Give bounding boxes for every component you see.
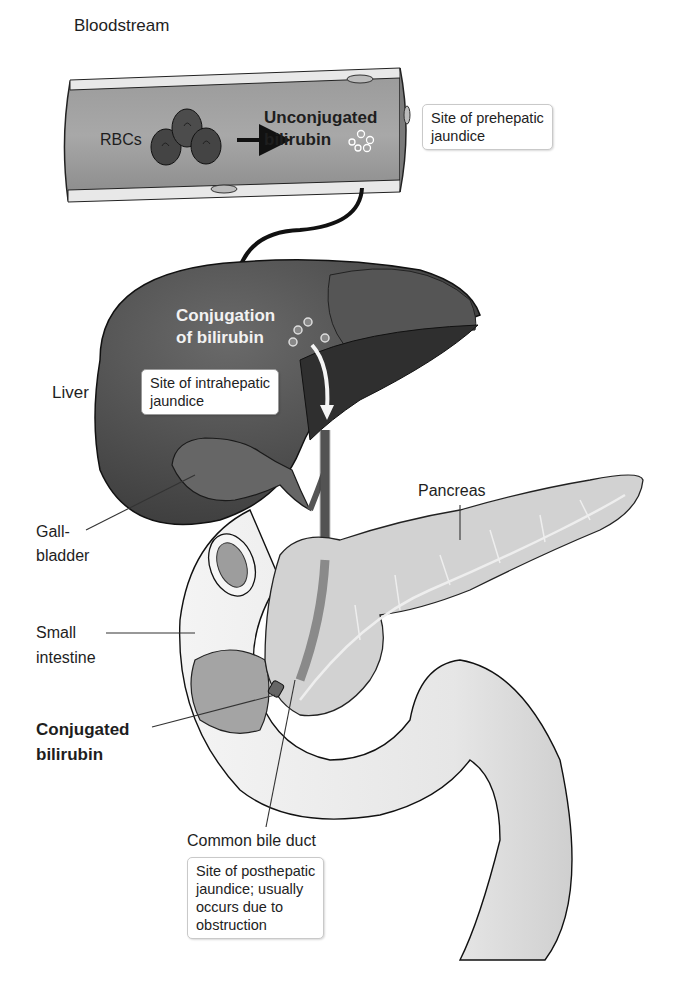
conjugation-label-line1: Conjugation xyxy=(176,306,275,326)
intrahepatic-line2: jaundice xyxy=(150,392,270,410)
rbcs-label: RBCs xyxy=(100,130,142,150)
small-intestine-label-line2: intestine xyxy=(36,648,96,668)
posthepatic-line4: obstruction xyxy=(196,916,315,934)
posthepatic-line2: jaundice; usually xyxy=(196,880,315,898)
intrahepatic-line1: Site of intrahepatic xyxy=(150,374,270,392)
unconjugated-bilirubin-label-line2: bilirubin xyxy=(264,130,331,150)
pancreas-label: Pancreas xyxy=(418,481,486,501)
conjugation-label-line2: of bilirubin xyxy=(176,328,264,348)
prehepatic-line1: Site of prehepatic xyxy=(431,109,544,127)
jaundice-diagram: Bloodstream RBCs Unconjugated bilirubin … xyxy=(0,0,685,995)
prehepatic-line2: jaundice xyxy=(431,127,544,145)
intrahepatic-callout: Site of intrahepatic jaundice xyxy=(141,369,279,415)
common-bile-duct-label: Common bile duct xyxy=(187,831,316,851)
conjugated-bilirubin-label-line2: bilirubin xyxy=(36,745,103,765)
posthepatic-callout: Site of posthepatic jaundice; usually oc… xyxy=(187,857,324,939)
posthepatic-line3: occurs due to xyxy=(196,898,315,916)
gallbladder-label-line1: Gall- xyxy=(36,522,70,542)
conjugated-bilirubin-label-line1: Conjugated xyxy=(36,720,130,740)
bloodstream-label: Bloodstream xyxy=(74,16,169,36)
gallbladder-label-line2: bladder xyxy=(36,546,89,566)
liver-label: Liver xyxy=(52,383,89,403)
unconjugated-bilirubin-label-line1: Unconjugated xyxy=(264,108,377,128)
posthepatic-line1: Site of posthepatic xyxy=(196,862,315,880)
small-intestine-label-line1: Small xyxy=(36,623,76,643)
prehepatic-callout: Site of prehepatic jaundice xyxy=(422,104,553,150)
